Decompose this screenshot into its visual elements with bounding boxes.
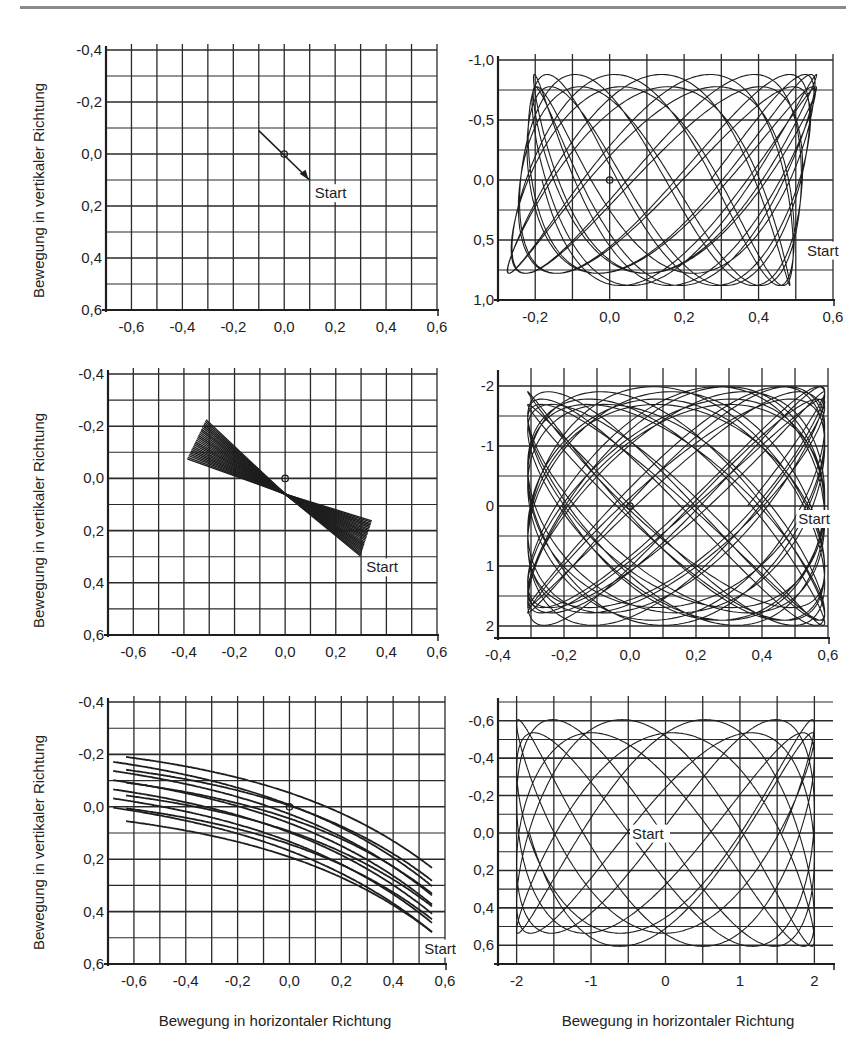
start-annotation: Start — [807, 242, 840, 259]
y-tick-label: -0,4 — [468, 749, 494, 766]
y-tick-label: 0,0 — [83, 469, 104, 486]
y-axis-label-row3: Bewegung in vertikaler Richtung — [30, 735, 47, 950]
x-tick-label: -0,4 — [171, 643, 197, 660]
x-tick-label: 0,0 — [275, 643, 296, 660]
y-axis-label-row1: Bewegung in vertikaler Richtung — [30, 83, 47, 298]
x-tick-label: 0,4 — [376, 318, 397, 335]
y-tick-label: 0,2 — [473, 861, 494, 878]
x-tick-label: 0,6 — [427, 318, 448, 335]
y-tick-label: -0,4 — [78, 693, 104, 710]
grid — [106, 44, 437, 310]
chart-row2-right: -0,4-0,20,00,20,40,6-2-1012Start — [495, 372, 840, 642]
y-tick-label: 0,0 — [81, 145, 102, 162]
start-annotation: Start — [315, 184, 348, 201]
x-axis-label-right: Bewegung in horizontaler Richtung — [548, 1012, 808, 1029]
y-tick-label: 0,4 — [83, 574, 104, 591]
y-tick-label: 0,6 — [83, 626, 104, 643]
y-tick-label: 1 — [486, 557, 494, 574]
x-tick-label: 0,6 — [818, 646, 839, 663]
y-tick-label: 0,4 — [473, 899, 494, 916]
x-tick-label: -0,2 — [551, 646, 577, 663]
x-tick-label: 0,6 — [435, 972, 456, 989]
y-tick-label: -0,4 — [78, 365, 104, 382]
y-tick-label: 0,2 — [81, 197, 102, 214]
y-tick-label: -0,2 — [468, 787, 494, 804]
x-tick-label: 0,4 — [748, 308, 769, 325]
x-tick-label: 0,2 — [674, 308, 695, 325]
y-tick-label: -1 — [481, 437, 494, 454]
y-tick-label: 0,5 — [473, 231, 494, 248]
x-tick-label: -0,2 — [225, 972, 251, 989]
x-tick-label: -0,2 — [220, 318, 246, 335]
start-annotation: Start — [366, 558, 399, 575]
y-tick-label: -1,0 — [468, 51, 494, 68]
x-tick-label: -0,4 — [169, 318, 195, 335]
x-tick-label: 0,4 — [383, 972, 404, 989]
x-tick-label: 0,2 — [325, 318, 346, 335]
x-tick-label: 0,0 — [599, 308, 620, 325]
start-annotation: Start — [798, 510, 831, 527]
y-tick-label: 0,2 — [83, 522, 104, 539]
y-tick-label: 1,0 — [473, 291, 494, 308]
x-tick-label: -0,6 — [121, 972, 147, 989]
y-tick-label: 0,6 — [473, 936, 494, 953]
y-tick-label: 0,0 — [473, 824, 494, 841]
y-tick-label: 0,0 — [473, 171, 494, 188]
y-axis-label-row2: Bewegung in vertikaler Richtung — [30, 413, 47, 628]
chart-row3-left: -0,6-0,4-0,20,00,20,40,6-0,4-0,20,00,20,… — [100, 700, 445, 970]
x-axis-label-left: Bewegung in horizontaler Richtung — [145, 1012, 405, 1029]
x-tick-label: 0,0 — [279, 972, 300, 989]
x-tick-label: 0,6 — [427, 643, 448, 660]
y-tick-label: 0,2 — [83, 850, 104, 867]
y-tick-label: -0,2 — [78, 745, 104, 762]
grid — [108, 368, 437, 635]
x-tick-label: -0,6 — [119, 318, 145, 335]
trajectory — [113, 757, 432, 932]
y-tick-label: -2 — [481, 377, 494, 394]
y-tick-label: 0,6 — [81, 301, 102, 318]
y-tick-label: -0,4 — [76, 41, 102, 58]
x-tick-label: 0,0 — [274, 318, 295, 335]
x-tick-label: 0,4 — [376, 643, 397, 660]
trajectory — [187, 420, 372, 556]
start-annotation: Start — [424, 940, 457, 957]
x-tick-label: 2 — [810, 972, 818, 989]
chart-row3-right: -2-1012-0,6-0,4-0,20,00,20,40,6Start — [495, 700, 840, 970]
grid — [108, 696, 445, 964]
header-rule — [20, 6, 846, 9]
x-tick-label: 0,0 — [620, 646, 641, 663]
x-tick-label: -0,6 — [120, 643, 146, 660]
chart-row1-left: -0,6-0,4-0,20,00,20,40,6-0,4-0,20,00,20,… — [100, 48, 445, 318]
y-tick-label: 2 — [486, 617, 494, 634]
chart-row2-left: -0,6-0,4-0,20,00,20,40,6-0,4-0,20,00,20,… — [100, 372, 445, 642]
y-tick-label: -0,6 — [468, 712, 494, 729]
y-tick-label: -0,2 — [78, 417, 104, 434]
y-tick-label: 0,6 — [83, 955, 104, 972]
y-tick-label: -0,5 — [468, 111, 494, 128]
x-tick-label: -0,4 — [173, 972, 199, 989]
x-tick-label: 1 — [736, 972, 744, 989]
y-tick-label: 0,4 — [83, 903, 104, 920]
x-tick-label: -0,2 — [522, 308, 548, 325]
y-tick-label: 0,4 — [81, 249, 102, 266]
x-tick-label: -0,4 — [485, 646, 511, 663]
chart-row1-right: -0,20,00,20,40,6-1,0-0,50,00,51,0Start — [495, 48, 840, 318]
y-tick-label: 0 — [486, 497, 494, 514]
start-annotation: Start — [632, 825, 665, 842]
x-tick-label: 0 — [661, 972, 669, 989]
y-tick-label: 0,0 — [83, 798, 104, 815]
x-tick-label: -1 — [584, 972, 597, 989]
x-tick-label: -0,2 — [222, 643, 248, 660]
x-tick-label: 0,2 — [325, 643, 346, 660]
x-tick-label: 0,6 — [823, 308, 844, 325]
x-tick-label: -2 — [510, 972, 523, 989]
x-tick-label: 0,2 — [331, 972, 352, 989]
x-tick-label: 0,4 — [752, 646, 773, 663]
x-tick-label: 0,2 — [686, 646, 707, 663]
y-tick-label: -0,2 — [76, 93, 102, 110]
